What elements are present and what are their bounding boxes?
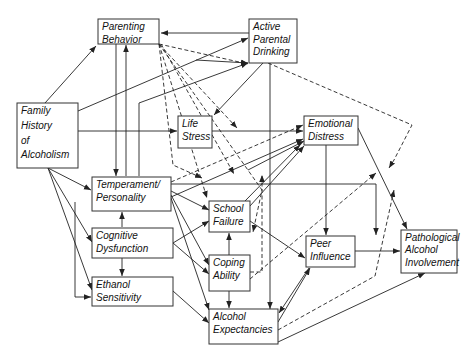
node-life: LifeStress [178,116,212,148]
node-label: Emotional [308,118,353,129]
node-emo: EmotionalDistress [304,116,358,145]
node-label: Alcoholism [20,149,69,160]
node-peer: PeerInfluence [306,236,355,267]
node-label: History [21,120,53,131]
node-label: Cognitive [96,230,138,241]
node-parenting: ParentingBehavior [98,19,159,45]
dashed-arrow-16 [159,44,237,128]
arrow-23 [171,191,209,210]
node-eth: EthanolSensitivity [92,277,173,306]
node-apd: ActiveParentalDrinking [249,19,297,63]
arrow-41 [279,268,309,313]
node-label: Family [21,105,51,116]
node-label: Behavior [102,34,142,45]
node-label: Ability [212,270,241,281]
node-label: Stress [182,131,210,142]
arrow-11 [214,63,263,115]
node-path: PathologicalAlcoholInvolvement [401,230,460,273]
node-label: School [213,203,244,214]
arrow-30 [173,243,209,274]
node-label: Alcohol [212,311,247,322]
arrow-22 [171,184,376,235]
arrow-1 [78,38,248,111]
node-label: Influence [310,251,351,262]
arrow-31 [173,291,209,323]
node-temp: Temperament/Personality [92,177,171,211]
node-label: Active [252,21,281,32]
node-label: Parental [253,34,291,45]
node-label: Pathological [405,232,460,243]
dashed-arrow-15 [159,44,248,64]
node-label: Temperament/ [96,179,161,190]
node-label: Alcohol [404,244,439,255]
node-label: Sensitivity [96,292,142,303]
node-label: Expectancies [213,324,272,335]
arrow-5 [48,168,92,290]
causal-path-diagram: ParentingBehaviorActiveParentalDrinkingF… [0,0,473,362]
node-label: Involvement [405,257,460,268]
node-label: Drinking [253,46,290,57]
node-label: Distress [308,131,344,142]
arrow-29 [173,221,209,243]
node-label: Peer [310,238,332,249]
node-exp: AlcoholExpectancies [209,309,278,344]
node-coping: CopingAbility [209,255,250,291]
node-fha: FamilyHistoryofAlcoholism [17,103,78,168]
arrow-39 [358,128,407,229]
node-cog: CognitiveDysfunction [92,228,173,258]
node-label: Parenting [102,21,145,32]
node-label: Life [182,118,199,129]
arrow-42 [278,268,310,322]
node-label: Dysfunction [96,243,149,254]
node-label: Ethanol [96,279,131,290]
node-label: of [21,135,31,146]
nodes-layer: ParentingBehaviorActiveParentalDrinkingF… [17,19,460,344]
arrow-44 [278,273,425,342]
node-label: Coping [213,257,245,268]
node-school: SchoolFailure [209,201,250,232]
node-label: Personality [96,192,146,203]
arrow-0 [45,46,96,103]
node-label: Failure [213,216,244,227]
arrow-9 [196,60,248,63]
arrow-47 [245,145,300,201]
